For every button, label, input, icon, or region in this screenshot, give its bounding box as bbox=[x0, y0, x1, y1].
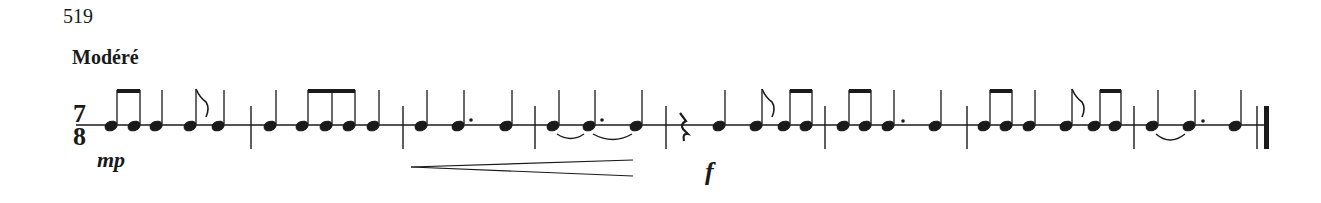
notes bbox=[104, 89, 1243, 141]
time-signature: 7 8 bbox=[73, 99, 86, 151]
dynamic-mp: mp bbox=[97, 147, 125, 172]
tie bbox=[1156, 134, 1185, 140]
crescendo-hairpin bbox=[411, 160, 633, 176]
rhythm-staff: 7 8 mp f bbox=[0, 0, 1321, 203]
tie bbox=[593, 134, 632, 140]
final-barline bbox=[1264, 106, 1269, 149]
tie bbox=[557, 134, 584, 139]
time-signature-denominator: 8 bbox=[73, 122, 86, 151]
eighth-rest-icon bbox=[680, 113, 688, 141]
dynamic-f: f bbox=[705, 157, 716, 186]
